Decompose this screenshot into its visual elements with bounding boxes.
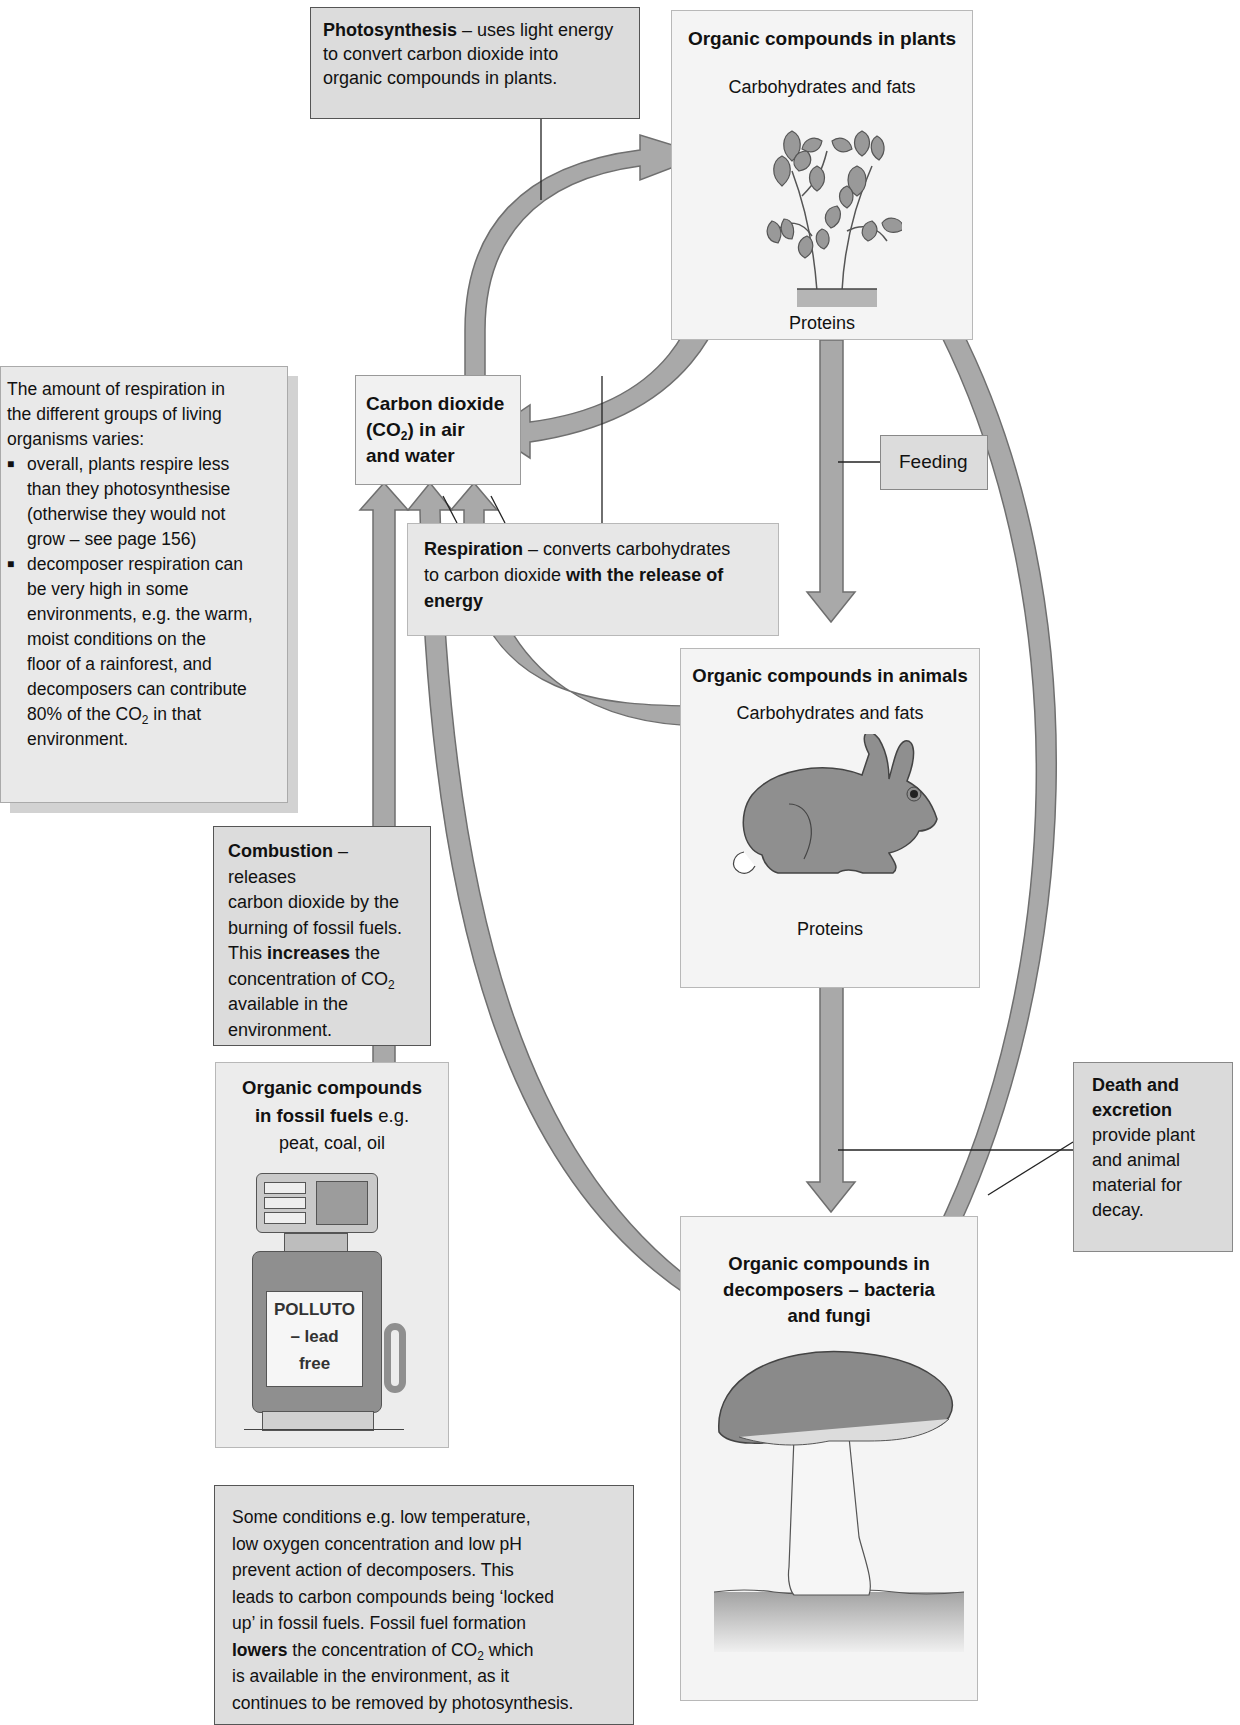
note-bullet-2: ■ decomposer respiration can be very hig… bbox=[7, 552, 281, 752]
bullet-text: environment. bbox=[27, 727, 281, 752]
feeding-label: Feeding bbox=[880, 435, 988, 490]
note-text: The amount of respiration in bbox=[7, 377, 281, 402]
decomposers-box: Organic compounds in decomposers – bacte… bbox=[680, 1216, 978, 1701]
rabbit-icon bbox=[719, 734, 949, 884]
photosynthesis-text: to convert carbon dioxide into bbox=[323, 42, 627, 66]
combustion-text: environment. bbox=[228, 1018, 416, 1044]
feeding-arrow bbox=[807, 340, 855, 622]
combustion-text: carbon dioxide by the bbox=[228, 890, 416, 916]
note-text: the different groups of living bbox=[7, 402, 281, 427]
conditions-text: leads to carbon compounds being ‘locked bbox=[232, 1584, 616, 1611]
conditions-box: Some conditions e.g. low temperature, lo… bbox=[214, 1485, 634, 1725]
note-bullet-1: ■ overall, plants respire less than they… bbox=[7, 452, 281, 552]
respiration-box: Respiration – converts carbohydrates to … bbox=[407, 523, 779, 636]
death-text: provide plant bbox=[1092, 1123, 1214, 1148]
co2-text: Carbon dioxide bbox=[366, 391, 510, 417]
combustion-title: Combustion bbox=[228, 841, 333, 861]
photosynthesis-text: organic compounds in plants. bbox=[323, 66, 627, 90]
death-text: decay. bbox=[1092, 1198, 1214, 1223]
bullet-text: be very high in some bbox=[27, 577, 281, 602]
decomposers-title: Organic compounds in decomposers – bacte… bbox=[681, 1251, 977, 1329]
plants-box: Organic compounds in plants Carbohydrate… bbox=[671, 10, 973, 340]
death-title: Death and bbox=[1092, 1073, 1214, 1098]
bullet-text: grow – see page 156) bbox=[27, 527, 281, 552]
mushroom-icon bbox=[699, 1337, 964, 1697]
animals-title: Organic compounds in animals bbox=[681, 663, 979, 688]
bullet-text: environments, e.g. the warm, bbox=[27, 602, 281, 627]
bullet-text: floor of a rainforest, and bbox=[27, 652, 281, 677]
respiration-variation-note: The amount of respiration in the differe… bbox=[0, 366, 288, 803]
pump-label: POLLUTO – lead free bbox=[266, 1291, 363, 1387]
combustion-text: concentration of CO2 bbox=[228, 967, 416, 993]
photosynthesis-box: Photosynthesis – uses light energy to co… bbox=[310, 7, 640, 119]
feeding-text: Feeding bbox=[899, 451, 968, 472]
combustion-box: Combustion – releases carbon dioxide by … bbox=[213, 826, 431, 1046]
photosynthesis-title: Photosynthesis bbox=[323, 20, 457, 40]
conditions-text: up’ in fossil fuels. Fossil fuel formati… bbox=[232, 1610, 616, 1637]
bullet-text: 80% of the CO2 in that bbox=[27, 702, 281, 727]
conditions-text: is available in the environment, as it bbox=[232, 1663, 616, 1690]
animals-box: Organic compounds in animals Carbohydrat… bbox=[680, 648, 980, 988]
bullet-text: overall, plants respire less bbox=[27, 452, 281, 477]
bullet-text: (otherwise they would not bbox=[27, 502, 281, 527]
plants-title: Organic compounds in plants bbox=[672, 26, 972, 51]
photosynthesis-text: – uses light energy bbox=[457, 20, 613, 40]
bullet-text: decomposer respiration can bbox=[27, 552, 281, 577]
bullet-text: moist conditions on the bbox=[27, 627, 281, 652]
combustion-text: available in the bbox=[228, 992, 416, 1018]
photosynthesis-arrow bbox=[465, 135, 705, 383]
fossil-title: in fossil fuels e.g. bbox=[216, 1103, 448, 1128]
fossil-examples: peat, coal, oil bbox=[216, 1131, 448, 1156]
note-text: organisms varies: bbox=[7, 427, 281, 452]
death-text: and animal bbox=[1092, 1148, 1214, 1173]
animals-carbs: Carbohydrates and fats bbox=[681, 701, 979, 726]
respiration-title: Respiration bbox=[424, 539, 523, 559]
plants-carbs: Carbohydrates and fats bbox=[672, 75, 972, 100]
conditions-text: low oxygen concentration and low pH bbox=[232, 1531, 616, 1558]
co2-text: and water bbox=[366, 443, 510, 469]
bullet-text: decomposers can contribute bbox=[27, 677, 281, 702]
death-text: material for bbox=[1092, 1173, 1214, 1198]
co2-box: Carbon dioxide (CO2) in air and water bbox=[355, 375, 521, 485]
respiration-text: to carbon dioxide with the release of bbox=[424, 562, 762, 588]
fossil-title: Organic compounds bbox=[216, 1075, 448, 1100]
respiration-text: energy bbox=[424, 588, 762, 614]
plant-icon bbox=[762, 111, 902, 311]
conditions-text: prevent action of decomposers. This bbox=[232, 1557, 616, 1584]
conditions-text: lowers the concentration of CO2 which bbox=[232, 1637, 616, 1664]
fossil-fuels-box: Organic compounds in fossil fuels e.g. p… bbox=[215, 1062, 449, 1448]
bullet-icon: ■ bbox=[7, 452, 14, 477]
respiration-text: – converts carbohydrates bbox=[523, 539, 730, 559]
death-excretion-box: Death and excretion provide plant and an… bbox=[1073, 1062, 1233, 1252]
plants-proteins: Proteins bbox=[672, 311, 972, 336]
fuel-pump-icon: POLLUTO – lead free bbox=[244, 1173, 424, 1433]
conditions-text: continues to be removed by photosynthesi… bbox=[232, 1690, 616, 1717]
combustion-text: burning of fossil fuels. bbox=[228, 916, 416, 942]
death-title: excretion bbox=[1092, 1098, 1214, 1123]
animals-proteins: Proteins bbox=[681, 917, 979, 942]
bullet-text: than they photosynthesise bbox=[27, 477, 281, 502]
conditions-text: Some conditions e.g. low temperature, bbox=[232, 1504, 616, 1531]
co2-text: (CO2) in air bbox=[366, 417, 510, 443]
death-animals-arrow bbox=[807, 970, 855, 1212]
bullet-icon: ■ bbox=[7, 552, 14, 577]
combustion-text: This increases the bbox=[228, 941, 416, 967]
